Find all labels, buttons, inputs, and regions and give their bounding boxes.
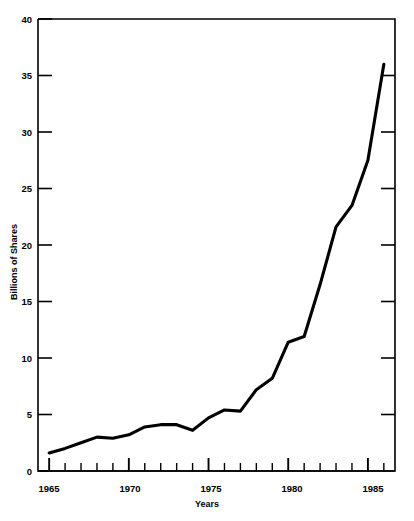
y-tick-label-20: 20 [21, 240, 32, 251]
y-axis-title: Billions of Shares [9, 224, 19, 300]
y-tick-label-10: 10 [21, 353, 32, 364]
y-tick-label-30: 30 [21, 127, 32, 138]
y-tick-group [38, 19, 52, 471]
data-series-line [49, 64, 384, 453]
x-tick-label-1975: 1975 [200, 483, 222, 494]
y-tick-label-25: 25 [21, 183, 32, 194]
y-tick-label-0: 0 [27, 466, 32, 477]
x-tick-label-1980: 1980 [281, 483, 302, 494]
plot-frame [38, 19, 395, 471]
line-chart: 0 5 10 15 20 25 30 35 40 Billions of Sha… [0, 0, 414, 521]
x-tick-label-1965: 1965 [38, 483, 60, 494]
chart-container: 0 5 10 15 20 25 30 35 40 Billions of Sha… [0, 0, 414, 521]
y-tick-label-40: 40 [21, 14, 32, 25]
y-tick-label-15: 15 [21, 296, 32, 307]
y-axis: 0 5 10 15 20 25 30 35 40 Billions of Sha… [9, 14, 395, 477]
x-axis-labels: 1965 1970 1975 1980 1985 Years [38, 483, 384, 509]
y-tick-right-group [381, 76, 395, 415]
x-tick-label-1985: 1985 [362, 483, 384, 494]
y-tick-label-35: 35 [21, 70, 32, 81]
y-tick-label-5: 5 [27, 409, 33, 420]
x-axis-ticks [49, 458, 384, 471]
x-axis-title: Years [195, 499, 219, 509]
x-tick-label-1970: 1970 [119, 483, 140, 494]
